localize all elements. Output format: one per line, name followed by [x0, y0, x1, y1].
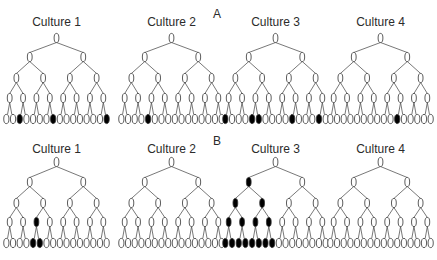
lineage-edge [131, 208, 138, 218]
lineage-edge [163, 103, 165, 115]
empty-cell-node [41, 73, 46, 82]
lineage-edge [381, 167, 408, 178]
lineage-edge [123, 103, 125, 115]
lineage-edge [255, 83, 262, 94]
empty-cell-node [351, 52, 356, 61]
empty-cell-node [17, 238, 22, 247]
empty-cell-node [303, 238, 308, 247]
lineage-edge [136, 103, 138, 115]
lineage-edge [36, 83, 43, 94]
empty-cell-node [64, 114, 69, 123]
empty-cell-node [320, 217, 325, 226]
empty-cell-node [37, 114, 42, 123]
empty-cell-node [81, 52, 86, 61]
lineage-edge [151, 103, 153, 115]
empty-cell-node [421, 238, 426, 247]
filled-cell-node [246, 177, 251, 186]
lineage-edge [427, 227, 429, 239]
lineage-edge [189, 227, 191, 239]
empty-cell-node [428, 114, 433, 123]
empty-cell-node [240, 93, 245, 102]
lineage-edge [103, 103, 105, 115]
lineage-trees-canvas [0, 0, 437, 260]
lineage-edge [412, 227, 414, 239]
empty-cell-node [176, 217, 181, 226]
lineage-edge [227, 227, 229, 239]
empty-cell-node [316, 238, 321, 247]
empty-cell-node [351, 177, 356, 186]
lineage-edge [36, 227, 38, 239]
lineage-tree-figure: ACulture 1Culture 2Culture 3Culture 4BCu… [0, 0, 437, 260]
empty-cell-node [415, 238, 420, 247]
empty-cell-node [405, 52, 410, 61]
empty-cell-node [233, 73, 238, 82]
filled-cell-node [17, 114, 22, 123]
lineage-edge [282, 103, 284, 115]
empty-cell-node [47, 217, 52, 226]
lineage-edge [302, 62, 315, 74]
lineage-edge [387, 227, 389, 239]
lineage-edge [387, 83, 394, 94]
lineage-edge [145, 167, 172, 178]
empty-cell-node [152, 238, 157, 247]
lineage-edge [276, 43, 303, 53]
lineage-edge [412, 103, 414, 115]
empty-cell-node [354, 114, 359, 123]
lineage-edge [83, 62, 96, 74]
filled-cell-node [256, 114, 261, 123]
lineage-edge [34, 227, 36, 239]
empty-cell-node [328, 238, 333, 247]
lineage-edge [367, 83, 374, 94]
empty-cell-node [348, 114, 353, 123]
empty-cell-node [166, 114, 171, 123]
empty-cell-node [209, 198, 214, 207]
lineage-edge [21, 227, 23, 239]
lineage-edge [216, 103, 218, 115]
empty-cell-node [149, 93, 154, 102]
lineage-edge [235, 62, 248, 74]
empty-cell-node [172, 114, 177, 123]
lineage-edge [316, 208, 323, 218]
lineage-edge [192, 103, 194, 115]
empty-cell-node [260, 73, 265, 82]
lineage-edge [269, 227, 271, 239]
empty-cell-node [156, 73, 161, 82]
empty-cell-node [368, 114, 373, 123]
empty-cell-node [388, 114, 393, 123]
lineage-edge [74, 103, 76, 115]
lineage-edge [360, 103, 362, 115]
lineage-edge [387, 208, 394, 218]
empty-cell-node [398, 93, 403, 102]
empty-cell-node [273, 33, 278, 42]
lineage-edge [205, 83, 212, 94]
lineage-edge [145, 187, 158, 199]
empty-cell-node [283, 238, 288, 247]
empty-cell-node [54, 33, 59, 42]
lineage-edge [235, 83, 242, 94]
empty-cell-node [4, 114, 9, 123]
lineage-edge [198, 187, 211, 199]
empty-cell-node [71, 238, 76, 247]
lineage-edge [414, 227, 416, 239]
lineage-edge [178, 208, 185, 218]
lineage-edge [280, 227, 282, 239]
empty-cell-node [91, 238, 96, 247]
lineage-edge [372, 227, 374, 239]
lineage-edge [267, 227, 269, 239]
empty-cell-node [88, 217, 93, 226]
lineage-edge [401, 103, 403, 115]
lineage-edge [401, 227, 403, 239]
lineage-edge [57, 167, 84, 178]
empty-cell-node [47, 93, 52, 102]
lineage-edge [394, 208, 401, 218]
empty-cell-node [391, 73, 396, 82]
empty-cell-node [368, 238, 373, 247]
lineage-edge [178, 83, 185, 94]
empty-cell-node [408, 238, 413, 247]
filled-cell-node [395, 114, 400, 123]
lineage-edge [280, 103, 282, 115]
filled-cell-node [104, 114, 109, 123]
empty-cell-node [199, 114, 204, 123]
filled-cell-node [229, 238, 234, 247]
tree-a-culture-2 [119, 33, 225, 123]
